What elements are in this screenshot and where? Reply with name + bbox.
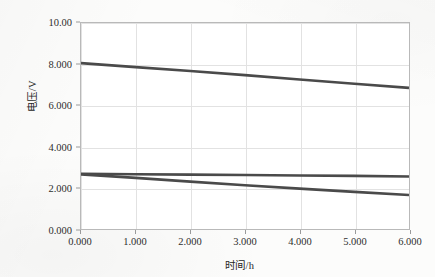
x-tick-mark — [410, 230, 411, 234]
y-tick-label: 10.00 — [0, 17, 72, 28]
y-tick-label: 4.000 — [0, 141, 72, 152]
y-tick-label: 0.000 — [0, 225, 72, 236]
series-layer — [81, 23, 409, 229]
series-line — [81, 174, 409, 177]
x-tick-label: 5.000 — [343, 236, 367, 247]
x-tick-mark — [80, 230, 81, 234]
x-tick-label: 6.000 — [398, 236, 422, 247]
plot-inner — [81, 23, 409, 229]
x-tick-label: 2.000 — [178, 236, 202, 247]
y-tick-label: 2.000 — [0, 183, 72, 194]
x-tick-mark — [245, 230, 246, 234]
x-tick-label: 3.000 — [233, 236, 257, 247]
x-tick-label: 4.000 — [288, 236, 312, 247]
y-tick-label: 8.000 — [0, 58, 72, 69]
x-axis-title-text: 时间/h — [225, 260, 255, 271]
y-axis-title: 电压/V — [24, 80, 39, 112]
x-axis-title: 时间/h — [0, 257, 435, 272]
x-tick-mark — [355, 230, 356, 234]
x-tick-mark — [190, 230, 191, 234]
x-tick-mark — [300, 230, 301, 234]
series-line — [81, 174, 409, 195]
x-tick-label: 1.000 — [123, 236, 147, 247]
x-tick-mark — [135, 230, 136, 234]
chart-screenshot: 电压/V 0.0002.0004.0006.0008.00010.00 0.00… — [0, 0, 435, 277]
series-line — [81, 63, 409, 88]
plot-area — [80, 22, 410, 230]
x-tick-label: 0.000 — [68, 236, 92, 247]
